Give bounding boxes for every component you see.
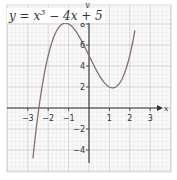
chart-title: y = x3 − 4x + 5 <box>7 8 105 23</box>
svg-text:−3: −3 <box>22 114 34 123</box>
svg-text:−1: −1 <box>63 114 75 123</box>
svg-text:−4: −4 <box>73 146 85 155</box>
svg-text:3: 3 <box>148 114 153 123</box>
svg-text:−2: −2 <box>42 114 54 123</box>
svg-text:−2: −2 <box>73 125 85 134</box>
svg-text:x: x <box>164 104 169 113</box>
svg-text:6: 6 <box>80 41 85 50</box>
cubic-function-graph: xy −3−2−1123−4−22468 <box>0 0 177 180</box>
svg-text:1: 1 <box>107 114 112 123</box>
svg-text:2: 2 <box>127 114 132 123</box>
svg-text:2: 2 <box>80 83 85 92</box>
svg-text:4: 4 <box>80 62 85 71</box>
